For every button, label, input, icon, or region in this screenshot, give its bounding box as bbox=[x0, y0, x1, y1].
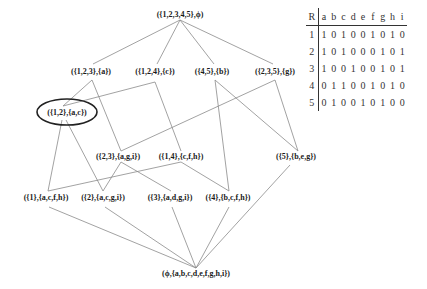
lattice-edge bbox=[49, 207, 196, 268]
table-cell: 1 bbox=[348, 60, 358, 77]
table-cell: 0 bbox=[397, 94, 407, 111]
concept-node-n1: ({1},{a,c,f,h}) bbox=[24, 193, 69, 202]
lattice-edge bbox=[196, 165, 290, 268]
lattice-edge bbox=[157, 20, 180, 64]
lattice-edge bbox=[93, 20, 180, 64]
table-cell: 1 bbox=[397, 43, 407, 60]
lattice-edge bbox=[180, 20, 214, 64]
table-cell: 1 bbox=[319, 60, 329, 77]
concept-node-n235: ({2,3,5},{g}) bbox=[255, 67, 295, 76]
table-cell: 0 bbox=[339, 60, 349, 77]
concept-node-n12: ({1,2},{a,c}) bbox=[47, 108, 87, 117]
table-cell: 0 bbox=[358, 77, 368, 94]
lattice-edges bbox=[48, 20, 298, 268]
table-cell: 0 bbox=[388, 60, 398, 77]
table-cell: 1 bbox=[358, 94, 368, 111]
column-header-e: e bbox=[358, 8, 368, 26]
table-cell: 1 bbox=[339, 26, 349, 44]
row-label: 1 bbox=[306, 26, 319, 44]
table-cell: 0 bbox=[368, 43, 378, 60]
lattice-edge bbox=[215, 80, 229, 191]
table-cell: 1 bbox=[388, 77, 398, 94]
column-header-d: d bbox=[348, 8, 358, 26]
context-table-body: 1101001010210100010131001001014011001010… bbox=[306, 26, 407, 112]
table-cell: 0 bbox=[319, 94, 329, 111]
table-cell: 0 bbox=[358, 43, 368, 60]
table-cell: 0 bbox=[348, 26, 358, 44]
lattice-edge bbox=[105, 207, 196, 268]
table-cell: 0 bbox=[358, 60, 368, 77]
column-header-b: b bbox=[329, 8, 339, 26]
table-cell: 0 bbox=[397, 77, 407, 94]
table-cell: 0 bbox=[378, 26, 388, 44]
concept-node-n14: ({1,4},{c,f,h}) bbox=[159, 152, 204, 161]
column-header-g: g bbox=[378, 8, 388, 26]
column-header-h: h bbox=[388, 8, 398, 26]
table-cell: 0 bbox=[378, 77, 388, 94]
table-cell: 0 bbox=[388, 43, 398, 60]
table-cell: 0 bbox=[368, 94, 378, 111]
table-cell: 1 bbox=[378, 94, 388, 111]
row-label: 5 bbox=[306, 94, 319, 111]
table-cell: 0 bbox=[348, 77, 358, 94]
row-label: 2 bbox=[306, 43, 319, 60]
context-table-header: R abcdefghi bbox=[306, 8, 407, 26]
table-cell: 0 bbox=[329, 60, 339, 77]
table-cell: 0 bbox=[348, 94, 358, 111]
row-label: 3 bbox=[306, 60, 319, 77]
table-cell: 0 bbox=[329, 43, 339, 60]
table-cell: 1 bbox=[339, 77, 349, 94]
table-cell: 1 bbox=[368, 77, 378, 94]
concept-node-n3: ({3},{a,d,g,i}) bbox=[148, 193, 193, 202]
table-cell: 1 bbox=[329, 94, 339, 111]
lattice-edge bbox=[215, 80, 298, 151]
lattice-edge bbox=[48, 162, 181, 191]
concept-node-n45: ({4,5},{b}) bbox=[195, 67, 229, 76]
lattice-edge bbox=[121, 80, 275, 151]
lattice-edge bbox=[180, 20, 273, 64]
concept-node-n23: ({2,3},{a,g,i}) bbox=[96, 152, 140, 161]
concept-node-n123: ({1,2,3},{a}) bbox=[71, 67, 111, 76]
concept-node-top: ({1,2,3,4,5},ϕ) bbox=[157, 10, 204, 19]
lattice-edge bbox=[181, 162, 229, 191]
table-cell: 1 bbox=[329, 77, 339, 94]
table-cell: 0 bbox=[358, 26, 368, 44]
table-cell: 1 bbox=[368, 26, 378, 44]
row-label: 4 bbox=[306, 77, 319, 94]
lattice-edge bbox=[121, 162, 171, 191]
table-cell: 1 bbox=[388, 26, 398, 44]
table-cell: 0 bbox=[348, 43, 358, 60]
table-cell: 0 bbox=[329, 26, 339, 44]
table-cell: 1 bbox=[319, 43, 329, 60]
table-cell: 1 bbox=[378, 43, 388, 60]
table-cell: 0 bbox=[368, 60, 378, 77]
column-header-f: f bbox=[368, 8, 378, 26]
table-cell: 1 bbox=[339, 43, 349, 60]
concept-node-n124: ({1,2,4},{c}) bbox=[135, 67, 175, 76]
lattice-edge bbox=[155, 82, 181, 151]
table-cell: 0 bbox=[339, 94, 349, 111]
column-header-a: a bbox=[319, 8, 329, 26]
table-row: 1101001010 bbox=[306, 26, 407, 44]
table-row: 2101000101 bbox=[306, 43, 407, 60]
lattice-edge bbox=[275, 80, 298, 151]
lattice-edge bbox=[172, 207, 196, 268]
lattice-edge bbox=[48, 120, 62, 191]
table-cell: 1 bbox=[319, 26, 329, 44]
table-cell: 0 bbox=[397, 26, 407, 44]
table-cell: 1 bbox=[378, 60, 388, 77]
lattice-edge bbox=[103, 162, 121, 191]
column-header-i: i bbox=[397, 8, 407, 26]
table-cell: 1 bbox=[397, 60, 407, 77]
table-cell: 0 bbox=[319, 77, 329, 94]
table-corner: R bbox=[306, 8, 319, 26]
table-row: 4011001010 bbox=[306, 77, 407, 94]
concept-node-n5: ({5},{b,e,g}) bbox=[276, 152, 316, 161]
concept-node-bottom: (ϕ,{a,b,c,d,e,f,g,h,i}) bbox=[162, 269, 230, 278]
concept-node-n2: ({2},{a,c,g,i}) bbox=[81, 193, 125, 202]
table-row: 5010010100 bbox=[306, 94, 407, 111]
table-cell: 0 bbox=[388, 94, 398, 111]
column-header-c: c bbox=[339, 8, 349, 26]
context-table: R abcdefghi 1101001010210100010131001001… bbox=[306, 8, 407, 111]
table-row: 3100100101 bbox=[306, 60, 407, 77]
